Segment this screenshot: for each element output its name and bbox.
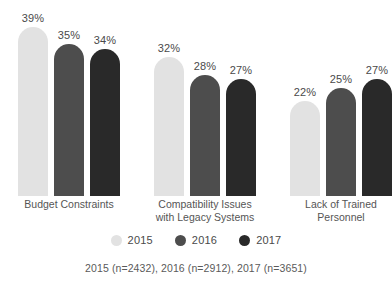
bar-value-label: 35% [58,29,80,41]
legend-swatch-icon [111,235,122,246]
plot-area: 39%35%34%32%28%27%22%25%27% [0,0,392,196]
legend-label: 2016 [192,234,217,246]
bar-2015-2[interactable] [154,57,184,196]
grouped-bar-chart: 39%35%34%32%28%27%22%25%27% Budget Const… [0,0,392,284]
bar-value-label: 28% [194,60,216,72]
legend-item-2016[interactable]: 2016 [175,234,217,246]
legend-item-2017[interactable]: 2017 [239,234,281,246]
category-axis-labels: Budget ConstraintsCompatibility Issues w… [0,198,392,230]
bar-value-label: 25% [330,73,352,85]
bar-value-label: 22% [294,86,316,98]
bar-group-bars: 32%28%27% [154,0,256,196]
bar-slot: 28% [190,0,220,196]
bar-slot: 32% [154,0,184,196]
chart-footnote: 2015 (n=2432), 2016 (n=2912), 2017 (n=36… [0,262,392,274]
bar-slot: 25% [326,0,356,196]
bar-2015-1[interactable] [18,27,48,196]
bar-group: 39%35%34% [18,0,120,196]
category-label: Budget Constraints [0,198,138,211]
bar-2015-3[interactable] [290,101,320,196]
bar-value-label: 27% [366,64,388,76]
bar-slot: 39% [18,0,48,196]
bar-group-bars: 39%35%34% [18,0,120,196]
bar-2017-1[interactable] [90,49,120,196]
legend-item-2015[interactable]: 2015 [111,234,153,246]
bar-slot: 34% [90,0,120,196]
bar-value-label: 27% [230,64,252,76]
category-label: Compatibility Issues with Legacy Systems [136,198,274,224]
category-label: Lack of Trained Personnel [272,198,392,224]
chart-legend: 201520162017 [0,234,392,246]
bar-value-label: 32% [158,42,180,54]
bar-slot: 27% [226,0,256,196]
bar-2016-1[interactable] [54,44,84,196]
bar-slot: 35% [54,0,84,196]
legend-label: 2017 [256,234,281,246]
bar-2016-2[interactable] [190,75,220,196]
bar-value-label: 34% [94,34,116,46]
legend-swatch-icon [175,235,186,246]
bar-value-label: 39% [22,12,44,24]
legend-label: 2015 [128,234,153,246]
bar-slot: 22% [290,0,320,196]
legend-swatch-icon [239,235,250,246]
bar-group: 22%25%27% [290,0,392,196]
bar-2016-3[interactable] [326,88,356,196]
bar-2017-2[interactable] [226,79,256,196]
bar-slot: 27% [362,0,392,196]
bar-group-bars: 22%25%27% [290,0,392,196]
bar-2017-3[interactable] [362,79,392,196]
bar-group: 32%28%27% [154,0,256,196]
